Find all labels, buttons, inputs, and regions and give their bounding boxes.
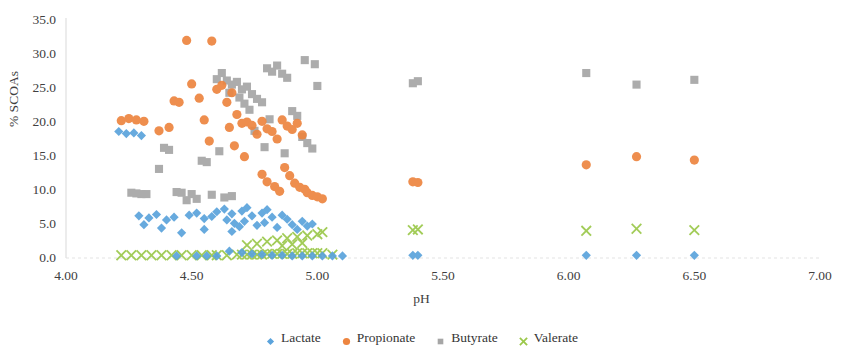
data-point (311, 60, 319, 68)
data-point (582, 69, 590, 77)
data-point (165, 146, 173, 154)
data-point (217, 81, 226, 90)
data-point (632, 224, 642, 234)
data-point (243, 83, 251, 91)
legend-label: Butyrate (451, 330, 498, 346)
y-tick-label: 35.0 (8, 12, 56, 28)
data-point (116, 250, 126, 260)
data-point (301, 56, 309, 64)
legend-item-valerate[interactable]: Valerate (518, 330, 578, 346)
data-point (203, 158, 211, 166)
data-point (632, 251, 641, 260)
data-point (162, 215, 171, 224)
data-point (247, 211, 256, 220)
data-point (183, 196, 191, 204)
data-point (175, 98, 184, 107)
x-tick-label: 6.00 (557, 268, 581, 284)
data-point (308, 251, 317, 260)
data-point (157, 250, 167, 260)
legend-item-propionate[interactable]: Propionate (341, 330, 416, 346)
data-point (258, 98, 266, 106)
data-point (266, 115, 274, 123)
data-point (328, 251, 337, 260)
data-point (413, 178, 422, 187)
circle-marker-icon (341, 333, 352, 344)
data-point (262, 177, 271, 186)
data-point (690, 76, 698, 84)
data-point (257, 170, 266, 179)
data-point (192, 209, 201, 218)
data-point (137, 250, 147, 260)
x-tick-label: 5.50 (431, 268, 455, 284)
legend-item-lactate[interactable]: Lactate (265, 330, 321, 346)
data-point (225, 123, 234, 132)
cross-marker-icon (518, 333, 529, 344)
data-point (220, 204, 229, 213)
data-point (200, 115, 209, 124)
legend-item-butyrate[interactable]: Butyrate (435, 330, 498, 346)
y-tick-label: 25.0 (8, 80, 56, 96)
data-point (114, 127, 123, 136)
data-point (222, 98, 231, 107)
y-tick-label: 0.0 (8, 250, 56, 266)
x-axis-title: pH (0, 291, 843, 307)
data-point (285, 171, 294, 180)
legend-label: Propionate (357, 330, 416, 346)
data-point (240, 152, 249, 161)
data-point (195, 94, 204, 103)
legend-label: Valerate (534, 330, 578, 346)
data-point (227, 209, 236, 218)
data-point (414, 77, 422, 85)
data-point (142, 190, 150, 198)
data-point (632, 81, 640, 89)
data-point (582, 160, 591, 169)
data-point (338, 251, 347, 260)
data-point (267, 127, 276, 136)
data-point (247, 121, 256, 130)
data-point (313, 82, 321, 90)
x-tick-label: 6.50 (683, 268, 707, 284)
data-point (169, 213, 178, 222)
data-point (690, 155, 699, 164)
data-point (205, 136, 214, 145)
data-point (200, 214, 209, 223)
data-point (157, 223, 166, 232)
data-point (137, 131, 146, 140)
y-tick-label: 20.0 (8, 114, 56, 130)
data-point (178, 189, 186, 197)
y-tick-label: 15.0 (8, 148, 56, 164)
data-point (252, 130, 261, 139)
data-point (293, 119, 302, 128)
data-point (177, 228, 186, 237)
data-point (280, 163, 289, 172)
data-point (129, 128, 138, 137)
data-point (298, 130, 307, 139)
x-tick-label: 5.00 (306, 268, 330, 284)
data-point (227, 88, 236, 97)
data-point (230, 141, 239, 150)
data-point (262, 237, 272, 247)
data-point (242, 240, 252, 250)
data-point (273, 62, 281, 70)
x-tick-label: 7.00 (808, 268, 832, 284)
y-tick-label: 30.0 (8, 46, 56, 62)
legend-label: Lactate (281, 330, 321, 346)
data-point (155, 165, 163, 173)
x-tick-label: 4.50 (180, 268, 204, 284)
data-point (215, 147, 223, 155)
data-point (228, 192, 236, 200)
data-point (308, 144, 316, 152)
data-point (193, 195, 201, 203)
data-point (147, 250, 157, 260)
data-point (283, 74, 291, 82)
data-point (267, 213, 276, 222)
data-point (139, 220, 148, 229)
data-point (245, 106, 253, 114)
data-point (127, 250, 137, 260)
series-lactate (114, 127, 699, 261)
data-point (261, 143, 269, 151)
data-point (185, 211, 194, 220)
data-point (154, 126, 163, 135)
data-point (207, 36, 216, 45)
data-point (227, 227, 236, 236)
